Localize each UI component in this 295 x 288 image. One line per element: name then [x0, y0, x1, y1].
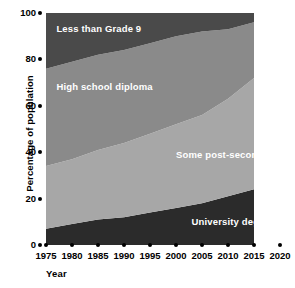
x-axis-title: Year	[46, 268, 67, 279]
x-tick-dot	[278, 243, 282, 247]
band-label: University degree	[192, 216, 274, 227]
y-tick-label: 100	[20, 7, 36, 19]
y-tick-label: 40	[25, 146, 36, 158]
x-tick-dot	[226, 243, 230, 247]
stacked-area-plot	[46, 13, 254, 245]
x-tick-dot	[200, 243, 204, 247]
y-tick-dot	[38, 197, 42, 201]
x-tick-label: 2020	[260, 250, 295, 261]
band-label: Some post-secondary	[176, 149, 278, 160]
y-tick-dot	[38, 150, 42, 154]
x-tick-dot	[70, 243, 74, 247]
y-tick-label: 20	[25, 193, 36, 205]
chart-figure: Percentage of population 020406080100 Le…	[0, 0, 295, 288]
y-tick-label: 60	[25, 100, 36, 112]
y-tick-dot	[38, 11, 42, 15]
x-tick-dot	[252, 243, 256, 247]
x-tick-dot	[122, 243, 126, 247]
y-tick-label: 80	[25, 53, 36, 65]
band-label: Less than Grade 9	[56, 23, 141, 34]
x-tick-dot	[148, 243, 152, 247]
y-tick-dot	[38, 57, 42, 61]
x-tick-dot	[44, 243, 48, 247]
x-tick-dot	[174, 243, 178, 247]
y-tick-dot	[38, 104, 42, 108]
y-tick-dot	[38, 243, 42, 247]
x-tick-dot	[96, 243, 100, 247]
band-label: High school diploma	[56, 81, 152, 92]
y-axis-title: Percentage of population	[24, 59, 35, 209]
